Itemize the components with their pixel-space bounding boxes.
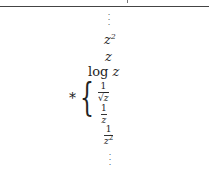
frac-numerator: 1 xyxy=(100,82,106,91)
z-term: z xyxy=(105,49,112,64)
frac-denominator: √z xyxy=(98,94,109,103)
log-argument: z xyxy=(112,64,119,79)
den-exponent: 2 xyxy=(109,134,113,142)
frac-numerator: 1 xyxy=(101,104,107,113)
z-squared-base: z xyxy=(104,32,111,47)
frac-one-over-z: 1 z xyxy=(101,104,107,125)
top-ellipsis: ··· xyxy=(106,12,112,27)
frac-denominator: z2 xyxy=(104,137,113,146)
frac-numerator: 1 xyxy=(106,125,112,134)
left-brace: { xyxy=(80,74,94,118)
top-rule xyxy=(0,6,209,7)
rule-tick xyxy=(127,0,128,3)
sqrt-radicand: z xyxy=(104,93,109,103)
asterisk-marker: * xyxy=(69,90,76,106)
frac-one-over-sqrt-z: 1 √z xyxy=(98,82,109,103)
z-squared-exponent: 2 xyxy=(111,32,116,41)
frac-one-over-z-squared: 1 z2 xyxy=(104,125,113,146)
z-squared: z2 xyxy=(104,32,116,47)
bottom-ellipsis: ··· xyxy=(107,152,113,167)
